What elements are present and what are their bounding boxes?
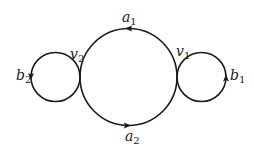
large-circle-edges-a1-a2 [80,29,177,126]
label-b2: b2 [16,67,31,85]
graph-diagram: a1 a2 b2 b1 v2 v1 [0,0,254,150]
label-v2: v2 [70,46,84,64]
label-a2: a2 [125,128,140,146]
label-b1: b1 [230,67,245,85]
label-v1: v1 [176,43,190,61]
label-a1: a1 [122,9,137,27]
